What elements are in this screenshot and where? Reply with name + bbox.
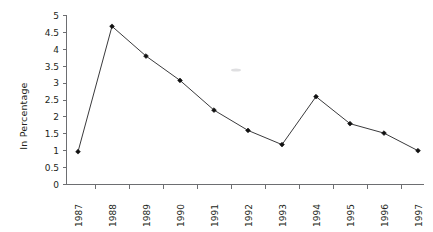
- data-series-markers: [76, 24, 421, 154]
- scan-artifact: [231, 68, 241, 71]
- y-tick-label: 3: [53, 78, 59, 88]
- x-tick-label: 1989: [142, 204, 152, 227]
- y-tick-label: 2.5: [45, 95, 59, 105]
- data-point: [416, 148, 421, 153]
- x-tick-label: 1996: [380, 204, 390, 227]
- y-tick-label: 1.5: [45, 129, 59, 139]
- data-point: [246, 128, 251, 133]
- y-tick-label: 0: [53, 180, 59, 190]
- data-point: [382, 131, 387, 136]
- x-tick-label: 1991: [210, 204, 220, 227]
- y-tick-label: 2: [53, 112, 59, 122]
- y-tick-label: 0.5: [45, 163, 59, 173]
- x-tick-label: 1990: [176, 204, 186, 227]
- x-tick-label: 1988: [108, 204, 118, 227]
- x-axis-ticks: [96, 185, 402, 189]
- x-tick-label: 1987: [74, 204, 84, 227]
- x-tick-label: 1995: [346, 204, 356, 227]
- x-tick-label: 1993: [278, 204, 288, 227]
- x-tick-label: 1997: [414, 204, 424, 227]
- chart-plot-area: 5 4.5 4 3.5 3 2.5 2 1.5 1 0.5 0: [0, 0, 433, 232]
- x-tick-label: 1994: [312, 204, 322, 227]
- y-tick-label: 5: [53, 11, 59, 21]
- y-tick-label: 4.5: [45, 28, 59, 38]
- y-tick-label: 3.5: [45, 62, 59, 72]
- y-axis-tick-labels: 5 4.5 4 3.5 3 2.5 2 1.5 1 0.5 0: [45, 11, 60, 190]
- data-point: [76, 149, 81, 154]
- y-tick-label: 4: [53, 45, 59, 55]
- line-chart: In Percentage 5 4.5 4 3.5 3 2: [0, 0, 433, 232]
- y-axis-ticks: [63, 16, 67, 185]
- y-tick-label: 1: [53, 146, 59, 156]
- x-tick-label: 1992: [244, 204, 254, 227]
- x-axis-tick-labels: 1987 1988 1989 1990 1991 1992 1993 1994 …: [74, 204, 424, 227]
